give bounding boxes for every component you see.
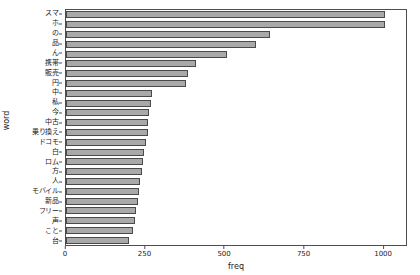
bar-row: [66, 147, 406, 157]
bar[interactable]: [66, 237, 129, 244]
bar[interactable]: [66, 80, 186, 87]
y-axis-tick: 今: [14, 108, 62, 118]
y-axis-tick-mark: [59, 181, 62, 182]
y-axis-tick: フリー: [14, 207, 62, 217]
y-axis-tick: スマ: [14, 9, 62, 19]
bar[interactable]: [66, 188, 139, 195]
bar-row: [66, 186, 406, 196]
y-axis-tick-mark: [59, 73, 62, 74]
bar[interactable]: [66, 139, 146, 146]
y-axis-tick: こと: [14, 226, 62, 236]
bar[interactable]: [66, 90, 152, 97]
x-axis-tick-mark: [224, 246, 225, 249]
x-axis-tick-mark: [144, 246, 145, 249]
bar-row: [66, 216, 406, 226]
bar-chart: word スマホの品ん携帯販売円中私今中古乗り換えドコモ白ロム方人モバイル新品フ…: [0, 0, 420, 275]
bar-row: [66, 10, 406, 20]
bar[interactable]: [66, 21, 385, 28]
y-axis-tick: 中: [14, 88, 62, 98]
bar[interactable]: [66, 217, 135, 224]
bar-row: [66, 59, 406, 69]
bar-row: [66, 177, 406, 187]
x-axis-tick-label: 1000: [374, 250, 392, 258]
x-axis-tick: 0: [63, 246, 67, 258]
bar-row: [66, 196, 406, 206]
bar-row: [66, 235, 406, 245]
bar[interactable]: [66, 31, 270, 38]
y-axis-tick-mark: [59, 142, 62, 143]
y-axis-tick-mark: [59, 33, 62, 34]
x-axis-tick: 250: [138, 246, 151, 258]
y-axis-tick-mark: [59, 132, 62, 133]
y-axis-tick-mark: [59, 201, 62, 202]
y-axis-tick-mark: [59, 221, 62, 222]
bar[interactable]: [66, 100, 151, 107]
y-axis-tick-mark: [59, 152, 62, 153]
bar[interactable]: [66, 60, 196, 67]
y-axis-tick: 乗り換え: [14, 128, 62, 138]
y-axis-tick: 人: [14, 177, 62, 187]
y-axis-tick-mark: [59, 83, 62, 84]
y-axis-tick: 白: [14, 147, 62, 157]
bar-series: [66, 10, 406, 245]
y-axis-title-text: word: [3, 110, 12, 130]
bar[interactable]: [66, 158, 143, 165]
y-axis-tick-mark: [59, 191, 62, 192]
y-axis-tick-mark: [59, 102, 62, 103]
y-axis-tick-mark: [59, 53, 62, 54]
x-axis-tick-label: 0: [63, 250, 67, 258]
y-axis-tick-mark: [59, 162, 62, 163]
x-axis-tick: 500: [217, 246, 230, 258]
bar[interactable]: [66, 109, 149, 116]
bar-row: [66, 128, 406, 138]
bar[interactable]: [66, 198, 138, 205]
y-axis-tick-mark: [59, 63, 62, 64]
y-axis-tick: 声: [14, 216, 62, 226]
x-axis-tick-label: 500: [217, 250, 230, 258]
x-axis-tick-mark: [303, 246, 304, 249]
bar[interactable]: [66, 168, 142, 175]
y-axis-tick-mark: [59, 92, 62, 93]
bar-row: [66, 157, 406, 167]
y-axis-tick: 携帯: [14, 58, 62, 68]
bar[interactable]: [66, 178, 140, 185]
x-axis-tick-label: 750: [297, 250, 310, 258]
y-axis-tick: 方: [14, 167, 62, 177]
bar[interactable]: [66, 51, 227, 58]
x-axis-ticks: 02505007501000: [65, 246, 407, 262]
y-axis-tick-label: モバイル: [32, 188, 62, 195]
bar-row: [66, 167, 406, 177]
x-axis-title: freq: [65, 262, 407, 271]
y-axis-tick: ロム: [14, 157, 62, 167]
x-axis-tick: 750: [297, 246, 310, 258]
bar[interactable]: [66, 149, 144, 156]
bar[interactable]: [66, 11, 385, 18]
y-axis-tick: 新品: [14, 197, 62, 207]
bar[interactable]: [66, 227, 133, 234]
bar-row: [66, 39, 406, 49]
bar-row: [66, 98, 406, 108]
y-axis-tick: ホ: [14, 19, 62, 29]
x-axis-tick-mark: [65, 246, 66, 249]
y-axis-tick: 販売: [14, 68, 62, 78]
bar-row: [66, 108, 406, 118]
y-axis-tick-mark: [59, 211, 62, 212]
y-axis-tick-mark: [59, 231, 62, 232]
x-axis-title-text: freq: [228, 262, 244, 271]
y-axis-tick-label: 乗り換え: [32, 129, 62, 136]
bar-row: [66, 88, 406, 98]
y-axis-tick-mark: [59, 43, 62, 44]
bar[interactable]: [66, 119, 148, 126]
bar-row: [66, 20, 406, 30]
y-axis-title: word: [0, 0, 14, 240]
bar-row: [66, 206, 406, 216]
bar[interactable]: [66, 129, 148, 136]
y-axis-tick-mark: [59, 241, 62, 242]
y-axis-tick-mark: [59, 112, 62, 113]
bar[interactable]: [66, 41, 256, 48]
bar[interactable]: [66, 207, 136, 214]
y-axis-tick: の: [14, 29, 62, 39]
y-axis-tick: ドコモ: [14, 137, 62, 147]
y-axis-tick: 品: [14, 39, 62, 49]
bar[interactable]: [66, 70, 188, 77]
